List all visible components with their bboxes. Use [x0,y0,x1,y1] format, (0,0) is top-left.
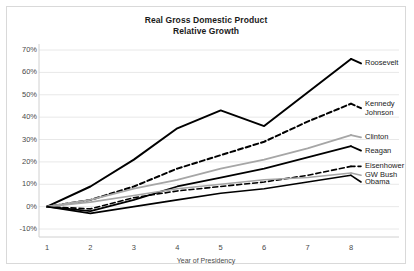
x-tick-label: 7 [298,243,318,252]
series-leader-roosevelt [351,59,361,63]
series-line-obama [47,175,351,213]
y-tick-label: 50% [11,90,37,99]
series-leader-gw-bush [351,173,361,175]
x-tick-label: 4 [167,243,187,252]
x-tick-label: 3 [124,243,144,252]
x-tick-label: 8 [341,243,361,252]
chart-frame: Real Gross Domestic Product Relative Gro… [6,6,406,264]
series-label-line: Johnson [365,108,395,118]
series-leader-reagan [351,146,361,150]
y-tick-label: 0% [11,202,37,211]
series-label-line: Obama [365,177,390,187]
series-label-kennedy-johnson: KennedyJohnson [365,99,395,118]
y-tick-label: 60% [11,67,37,76]
series-line-gw-bush [47,173,351,207]
x-tick-label: 5 [211,243,231,252]
series-label-line: Reagan [365,146,391,156]
series-leader-kennedy-johnson [351,104,361,108]
y-tick-label: 70% [11,45,37,54]
series-leader-clinton [351,135,361,137]
series-label-reagan: Reagan [365,146,391,156]
x-axis-title: Year of Presidency [7,257,405,264]
x-tick-label: 6 [254,243,274,252]
series-label-line: Clinton [365,132,388,142]
series-label-clinton: Clinton [365,132,388,142]
y-tick-label: 40% [11,112,37,121]
series-label-obama: Obama [365,177,390,187]
x-tick-label: 1 [37,243,57,252]
series-label-line: Roosevelt [365,58,398,68]
y-tick-label: -10% [11,224,37,233]
series-leader-obama [351,175,361,182]
y-tick-label: 10% [11,179,37,188]
y-tick-label: 30% [11,135,37,144]
plot-area [7,7,407,265]
x-tick-label: 2 [80,243,100,252]
series-label-roosevelt: Roosevelt [365,58,398,68]
series-label-line: Kennedy [365,99,395,109]
y-tick-label: 20% [11,157,37,166]
